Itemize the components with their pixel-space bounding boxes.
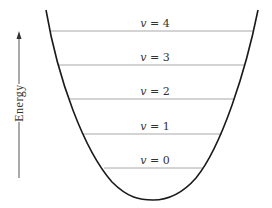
arrow-up-icon: [17, 31, 22, 39]
level-v0: v = 0: [104, 154, 202, 168]
level-v3: v = 3: [58, 51, 245, 65]
energy-axis-label: Energy: [12, 84, 26, 121]
level-label: v = 3: [140, 51, 169, 64]
level-label: v = 0: [140, 154, 169, 167]
energy-axis: Energy: [12, 31, 26, 178]
level-v1: v = 1: [83, 120, 222, 134]
potential-well-curve: [46, 10, 258, 200]
level-label: v = 2: [140, 85, 169, 98]
energy-levels: v = 4 v = 3 v = 2 v = 1 v = 0: [51, 17, 254, 168]
level-label: v = 1: [140, 120, 169, 133]
level-v4: v = 4: [51, 17, 254, 31]
energy-level-diagram: Energy v = 4 v = 3 v = 2 v = 1 v = 0: [0, 0, 272, 208]
level-label: v = 4: [140, 17, 169, 30]
level-v2: v = 2: [70, 85, 234, 99]
